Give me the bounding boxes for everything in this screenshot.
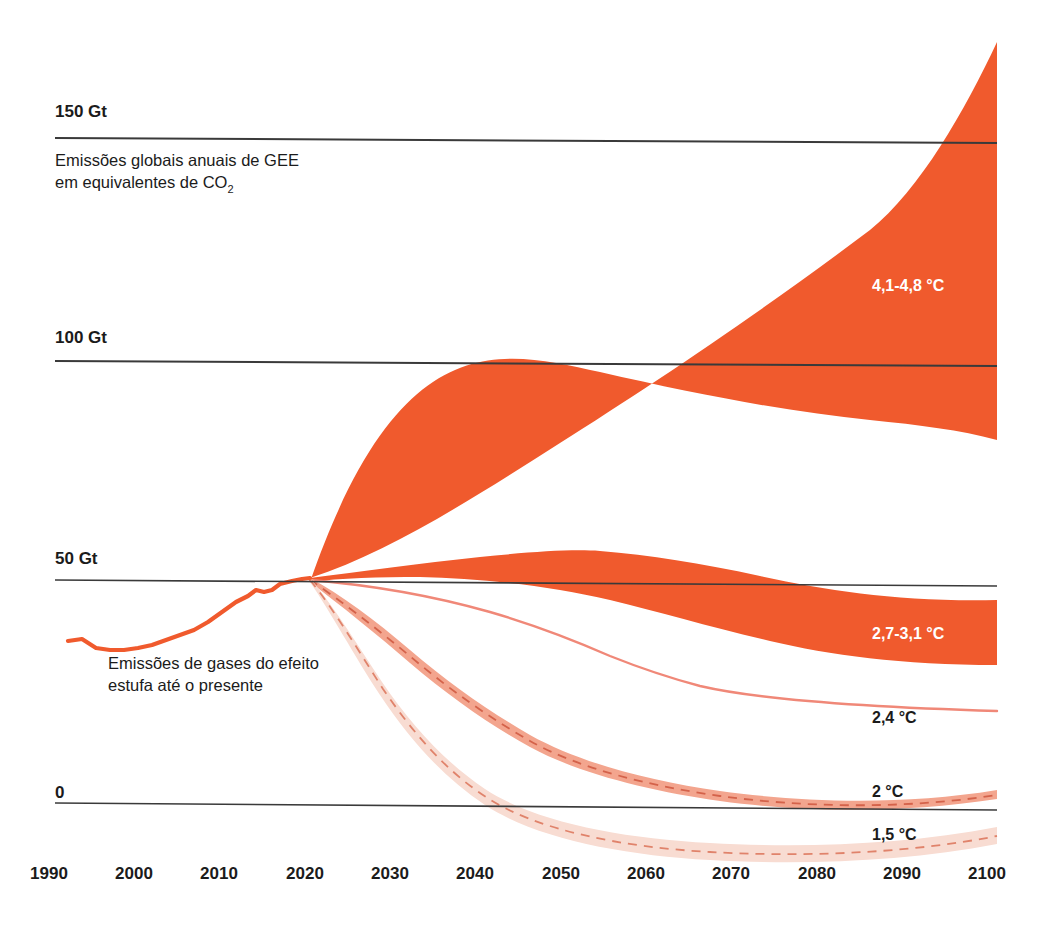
x-tick-label-2070: 2070 — [712, 864, 750, 883]
historical-emissions-line — [68, 578, 310, 650]
y-axis-caption-subscript: 2 — [227, 183, 233, 195]
x-tick-label-2000: 2000 — [115, 864, 153, 883]
x-tick-label-2030: 2030 — [371, 864, 409, 883]
gridline-150 — [55, 138, 997, 143]
y-tick-label-100: 100 Gt — [55, 328, 107, 347]
high-emissions-band — [310, 42, 997, 582]
historical-caption-line2: estufa até o presente — [108, 676, 263, 694]
x-tick-label-2010: 2010 — [200, 864, 238, 883]
x-axis-tick-labels: 1990 2000 2010 2020 2030 2040 2050 2060 … — [30, 864, 1006, 883]
y-axis-caption-line1: Emissões globais anuais de GEE — [55, 151, 299, 169]
emissions-scenarios-chart: 150 Gt 100 Gt 50 Gt 0 Emissões globais a… — [0, 0, 1049, 929]
y-tick-label-0: 0 — [55, 783, 64, 802]
y-axis-caption-line2-text: em equivalentes de CO — [55, 173, 228, 191]
historical-caption-line1: Emissões de gases do efeito — [108, 654, 319, 672]
x-tick-label-2040: 2040 — [456, 864, 494, 883]
x-tick-label-2050: 2050 — [542, 864, 580, 883]
band-label-two-degree: 2 °C — [872, 783, 904, 800]
chart-page: 150 Gt 100 Gt 50 Gt 0 Emissões globais a… — [0, 0, 1049, 929]
y-tick-label-150: 150 Gt — [55, 102, 107, 121]
x-tick-label-2080: 2080 — [798, 864, 836, 883]
x-tick-label-2020: 2020 — [286, 864, 324, 883]
y-axis-caption-line2: em equivalentes de CO2 — [55, 173, 234, 195]
band-label-one-five-degree: 1,5 °C — [872, 826, 917, 843]
current-policies-band — [310, 550, 997, 665]
x-tick-label-2100: 2100 — [968, 864, 1006, 883]
band-label-pledges: 2,4 °C — [872, 709, 917, 726]
x-tick-label-1990: 1990 — [30, 864, 68, 883]
band-label-high-emissions: 4,1-4,8 °C — [872, 277, 945, 294]
x-tick-label-2090: 2090 — [883, 864, 921, 883]
y-tick-label-50: 50 Gt — [55, 549, 98, 568]
x-tick-label-2060: 2060 — [627, 864, 665, 883]
band-label-current-policies: 2,7-3,1 °C — [872, 625, 945, 642]
